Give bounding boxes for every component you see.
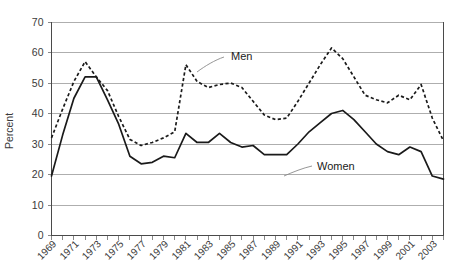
x-tick-label: 1977: [125, 238, 149, 262]
x-tick-label: 1995: [326, 238, 350, 262]
y-tick-label: 60: [32, 46, 44, 58]
y-tick-label: 50: [32, 77, 44, 89]
series-label-women: Women: [317, 160, 355, 172]
series-label-men: Men: [231, 50, 252, 62]
x-tick-label: 1971: [57, 238, 81, 262]
y-tick-label: 10: [32, 199, 44, 211]
chart-container: 010203040506070 196919711973197519771979…: [0, 0, 464, 271]
line-chart: 010203040506070 196919711973197519771979…: [0, 0, 464, 271]
series-line-men: [52, 48, 444, 146]
x-tick-label: 1969: [35, 238, 59, 262]
y-axis-ticks: 010203040506070: [32, 16, 52, 242]
y-tick-label: 40: [32, 107, 44, 119]
y-tick-label: 0: [38, 229, 44, 241]
y-axis-title: Percent: [3, 113, 15, 149]
x-tick-label: 2003: [416, 238, 440, 262]
x-tick-label: 1993: [304, 238, 328, 262]
x-tick-label: 1991: [281, 238, 305, 262]
series-line-women: [52, 77, 444, 179]
x-axis-tick-labels: 1969197119731975197719791981198319851987…: [35, 238, 440, 262]
x-tick-label: 1973: [80, 238, 104, 262]
x-tick-label: 1981: [169, 238, 193, 262]
x-tick-label: 1989: [259, 238, 283, 262]
y-tick-label: 70: [32, 16, 44, 28]
x-tick-label: 1975: [102, 238, 126, 262]
x-tick-label: 1985: [214, 238, 238, 262]
x-tick-label: 1999: [371, 238, 395, 262]
x-tick-label: 2001: [393, 238, 417, 262]
x-tick-label: 1987: [237, 238, 261, 262]
x-tick-label: 1997: [349, 238, 373, 262]
x-tick-label: 1983: [192, 238, 216, 262]
y-tick-label: 30: [32, 138, 44, 150]
men-leader-line: [197, 57, 224, 72]
y-tick-label: 20: [32, 168, 44, 180]
x-tick-label: 1979: [147, 238, 171, 262]
